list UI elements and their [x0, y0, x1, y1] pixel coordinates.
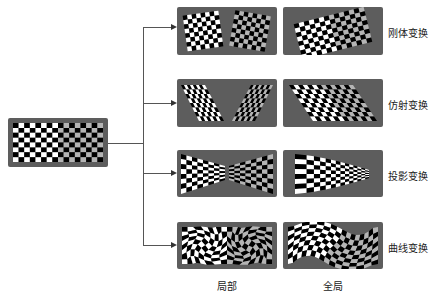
row-label-affine: 仿射变换 — [388, 97, 428, 112]
connector-row-4 — [143, 245, 171, 246]
connector-horizontal — [108, 143, 144, 144]
rigid-global-panel — [283, 7, 383, 55]
connector-row-1 — [143, 27, 171, 28]
column-label-local: 局部 — [217, 278, 237, 293]
curved-global-panel — [283, 222, 383, 269]
projective-global-panel — [283, 150, 383, 197]
projective-local-panel — [177, 150, 277, 197]
row-label-curved: 曲线变换 — [388, 240, 428, 255]
row-label-projective: 投影变换 — [388, 168, 428, 183]
affine-global-panel — [283, 79, 383, 127]
connector-row-3 — [143, 173, 171, 174]
affine-local-panel — [177, 79, 277, 127]
rigid-local-panel — [177, 7, 277, 55]
curved-local-panel — [177, 222, 277, 269]
row-label-rigid: 刚体变换 — [388, 25, 428, 40]
source-image — [8, 118, 108, 167]
connector-row-2 — [143, 103, 171, 104]
source-checkerboard — [8, 118, 108, 167]
column-label-global: 全局 — [323, 278, 343, 293]
connector-vertical — [143, 27, 144, 245]
